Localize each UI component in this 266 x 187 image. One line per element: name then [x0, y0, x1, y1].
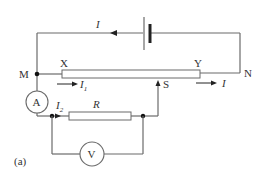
ammeter-label: A: [33, 96, 41, 108]
current-label-i1: I1: [79, 78, 87, 93]
current-arrow-top-icon: [110, 30, 117, 36]
label-y: Y: [194, 57, 202, 69]
junction-m: [35, 72, 40, 77]
slide-wire-xy: [62, 70, 200, 78]
arrow-right-icon: [72, 82, 78, 87]
arrow-right-icon: [211, 81, 217, 86]
current-arrow-right: [196, 81, 217, 86]
current-label-top: I: [95, 18, 101, 30]
voltmeter-label: V: [88, 148, 96, 160]
battery-icon: [144, 17, 150, 50]
current-arrow-i1: [57, 82, 78, 87]
label-s: S: [163, 78, 169, 90]
resistor-label: R: [92, 98, 100, 110]
resistor-icon: [69, 112, 131, 120]
label-x: X: [60, 57, 68, 69]
figure-caption: (a): [14, 155, 27, 168]
circuit-diagram: I M X Y N I1 I A I2 R S V (a): [0, 0, 266, 187]
current-label-i2: I2: [55, 99, 64, 114]
current-label-right: I: [221, 77, 227, 89]
label-m: M: [19, 68, 29, 80]
current-arrow-i2-icon: [55, 114, 61, 119]
slider-arrow-icon: [156, 80, 161, 86]
label-n: N: [244, 67, 252, 79]
